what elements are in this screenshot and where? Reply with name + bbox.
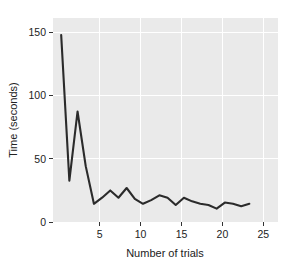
x-tick-label-15: 15	[176, 228, 188, 240]
x-tick-label-5: 5	[97, 228, 103, 240]
y-tick-label-50: 50	[34, 153, 46, 165]
line-chart: 0 50 100 150 5 10 15 20 25 Number of tri…	[0, 0, 293, 275]
x-tick-label-25: 25	[257, 228, 269, 240]
y-tick-label-100: 100	[28, 89, 46, 101]
y-tick-label-0: 0	[40, 216, 46, 228]
y-axis-title: Time (seconds)	[7, 82, 19, 157]
y-tick-label-150: 150	[28, 26, 46, 38]
plot-area-background	[53, 18, 278, 222]
x-axis-title: Number of trials	[126, 247, 204, 259]
x-tick-label-20: 20	[217, 228, 229, 240]
x-tick-label-10: 10	[135, 228, 147, 240]
